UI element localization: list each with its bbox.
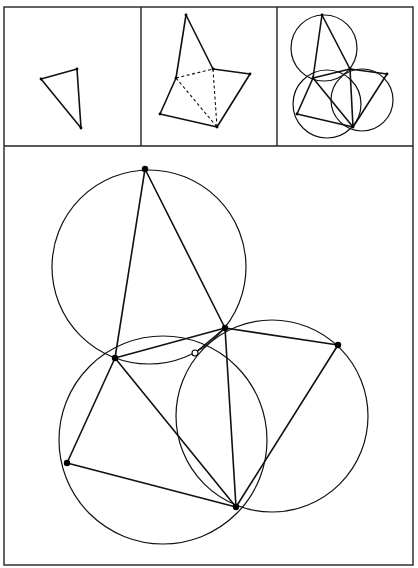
segment-TB xyxy=(313,15,322,78)
segment-EF xyxy=(67,463,236,507)
vertex-T xyxy=(321,14,324,17)
segment-DF xyxy=(353,74,387,127)
common-point-hollow xyxy=(192,350,198,356)
vertex-A xyxy=(142,166,148,172)
segment-AB xyxy=(41,69,77,79)
segment-CF xyxy=(350,69,353,127)
circumcircle-BEF xyxy=(59,336,267,544)
circumcircle xyxy=(291,15,357,81)
panel-step-2 xyxy=(159,14,252,129)
circumcircle-CDF xyxy=(176,320,368,512)
construction-figure xyxy=(0,0,418,568)
segment-DF xyxy=(217,74,250,127)
vertex-C xyxy=(212,68,215,71)
dashed-segment-CF xyxy=(213,69,217,127)
main-construction-panel xyxy=(52,166,368,544)
vertex-D xyxy=(335,342,341,348)
segment-BE xyxy=(67,358,115,463)
vertex-F xyxy=(233,504,239,510)
dashed-segment-BC xyxy=(176,69,213,78)
vertex-A xyxy=(40,78,43,81)
segment-BF xyxy=(115,358,236,507)
vertex-B xyxy=(76,68,79,71)
vertex-E xyxy=(159,113,162,116)
vertex-F xyxy=(216,126,219,129)
panel-step-1 xyxy=(40,68,83,130)
segment-TC xyxy=(186,15,213,69)
vertex-B xyxy=(175,77,178,80)
vertex-E xyxy=(64,460,70,466)
panel-step-3 xyxy=(291,14,393,138)
segment-CF xyxy=(225,328,236,507)
segment-AC xyxy=(145,169,225,328)
segment-TB xyxy=(176,15,186,78)
segment-BC xyxy=(77,69,81,128)
vertex-E xyxy=(296,113,299,116)
segment-CD xyxy=(213,69,250,74)
vertex-T xyxy=(185,14,188,17)
vertex-C xyxy=(349,68,352,71)
vertex-B xyxy=(312,77,315,80)
vertex-D xyxy=(249,73,252,76)
vertex-B xyxy=(112,355,118,361)
vertex-F xyxy=(352,126,355,129)
segment-AB xyxy=(115,169,145,358)
vertex-C xyxy=(80,127,83,130)
segment-DF xyxy=(236,345,338,507)
vertex-C xyxy=(222,325,228,331)
segment-BE xyxy=(160,78,176,114)
vertex-D xyxy=(386,73,389,76)
segment-CA xyxy=(41,79,81,128)
segment-CD xyxy=(225,328,338,345)
